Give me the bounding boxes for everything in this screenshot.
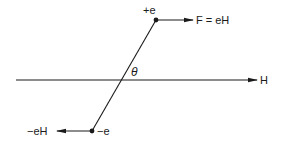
positive-charge-dot (154, 18, 159, 23)
negative-force-label: −eH (27, 125, 48, 137)
angle-theta-label: θ (131, 65, 138, 79)
positive-charge-label: +e (143, 4, 156, 16)
field-label-h: H (260, 74, 268, 86)
negative-charge-label: −e (97, 125, 110, 137)
dipole-axis (92, 20, 156, 131)
negative-charge-dot (90, 129, 95, 134)
dipole-field-diagram: H θ +e F = eH −e −eH (0, 0, 282, 149)
positive-force-label: F = eH (196, 14, 229, 26)
